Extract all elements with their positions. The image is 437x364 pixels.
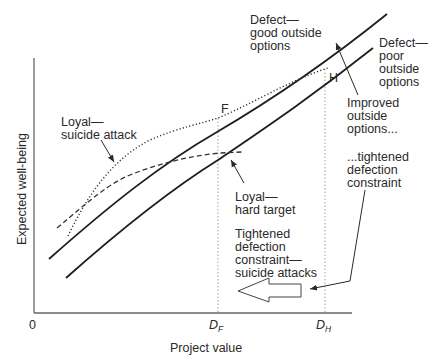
label-loyal-hard-target: Loyal— hard target [235, 191, 295, 217]
label-improved-options: Improved outside options... [347, 97, 399, 136]
label-tightened-constraint: ...tightened defection constraint [347, 151, 409, 190]
label-tightened-suicide-attacks: Tightened defection constraint— suicide … [235, 228, 317, 280]
arrow-loyal-suicide [101, 140, 114, 162]
label-defect-good-options: Defect— good outside options [250, 14, 322, 53]
tick-origin: 0 [29, 318, 36, 332]
curve-defect-poor-options [66, 48, 373, 278]
arrow-tightened-constraint [310, 190, 365, 289]
tick-df: DF [209, 318, 223, 334]
tick-dh-sub: H [325, 324, 331, 334]
tick-dh-main: D [316, 318, 325, 332]
tick-dh: DH [316, 318, 331, 334]
label-loyal-suicide-attack: Loyal— suicide attack [61, 116, 137, 142]
label-defect-poor-options: Defect— poor outside options [379, 37, 428, 89]
arrow-loyal-hard [231, 160, 244, 183]
tick-df-sub: F [218, 324, 223, 334]
arrow-improved-options [336, 43, 358, 95]
x-axis-title: Project value [170, 341, 242, 355]
point-label-f: F [221, 103, 229, 116]
tick-df-main: D [209, 318, 218, 332]
y-axis-title: Expected well-being [15, 133, 29, 245]
point-label-h: H [329, 72, 338, 85]
hollow-left-arrow [238, 278, 301, 302]
